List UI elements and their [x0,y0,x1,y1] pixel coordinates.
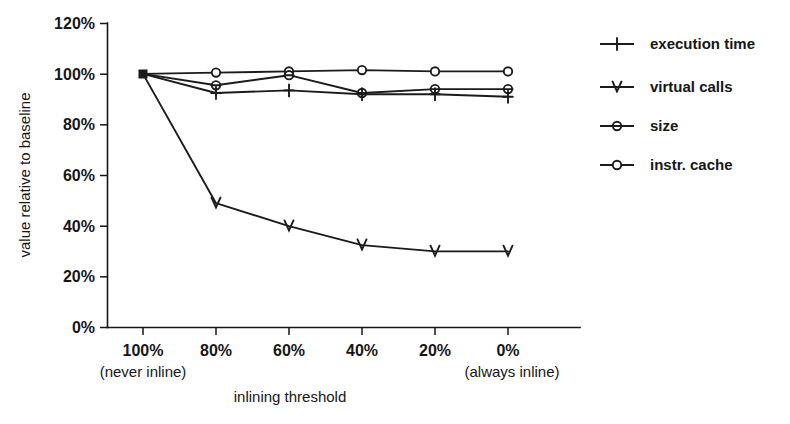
legend-item-instr-cache[interactable]: instr. cache [600,156,733,173]
open-circle-marker [431,67,439,75]
y-tick-label: 20% [63,268,95,285]
y-tick-label: 0% [72,319,95,336]
y-tick-label: 60% [63,167,95,184]
legend-item-execution-time[interactable]: execution time [600,35,755,52]
x-axis-note-right: (always inline) [464,363,559,380]
legend: execution time virtual calls size instr.… [600,35,755,173]
crossed-circle-marker [612,122,621,130]
crossed-circle-marker [284,71,293,79]
legend-label: size [650,117,678,134]
series-line-size [143,74,508,93]
y-tick-labels: 120% 100% 80% 60% 40% 20% 0% [54,15,95,336]
series-line-execution-time [143,74,508,97]
y-tick-label: 100% [54,66,95,83]
series-virtual-calls [143,74,513,256]
plus-marker [612,38,622,50]
open-circle-marker [212,68,220,76]
series-line-virtual-calls [143,74,508,252]
y-tick-label: 40% [63,218,95,235]
open-circle-marker [504,67,512,75]
legend-item-size[interactable]: size [600,117,678,134]
x-tick-marks [143,328,508,336]
inlining-threshold-line-chart: 120% 100% 80% 60% 40% 20% 0% 100% 80% 60… [0,0,790,424]
x-tick-label: 20% [419,342,451,359]
y-tick-label: 80% [63,116,95,133]
plus-marker [284,84,294,96]
chart-canvas: 120% 100% 80% 60% 40% 20% 0% 100% 80% 60… [0,0,790,424]
x-tick-label: 60% [273,342,305,359]
y-axis-title: value relative to baseline [16,92,33,257]
legend-item-virtual-calls[interactable]: virtual calls [600,78,733,95]
origin-marker-cluster [139,70,148,79]
x-tick-label: 40% [346,342,378,359]
y-tick-label: 120% [54,15,95,32]
y-tick-marks [100,24,108,328]
legend-label: execution time [650,35,755,52]
x-tick-label: 0% [496,342,519,359]
series-line-instr-cache [143,70,508,74]
x-tick-label: 80% [200,342,232,359]
legend-label: virtual calls [650,78,733,95]
legend-label: instr. cache [650,156,733,173]
open-circle-marker [358,66,366,74]
x-axis-title: inlining threshold [234,388,347,405]
open-circle-marker [613,161,621,169]
series-instr-cache [143,66,512,77]
x-tick-labels: 100% 80% 60% 40% 20% 0% [123,342,520,359]
x-axis-note-left: (never inline) [100,363,187,380]
x-tick-label: 100% [123,342,164,359]
